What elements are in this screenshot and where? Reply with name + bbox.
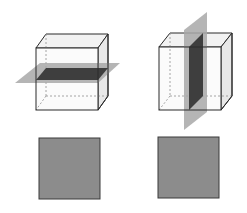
left-cube-horizontal-slice [15, 34, 120, 110]
right-result-square [158, 137, 219, 198]
cube-cross-section-diagram [0, 0, 247, 213]
left-cube-top-face [36, 34, 108, 48]
left-result-square [39, 138, 100, 199]
horizontal-cross-section [36, 68, 108, 80]
right-cube-vertical-slice [159, 12, 232, 130]
